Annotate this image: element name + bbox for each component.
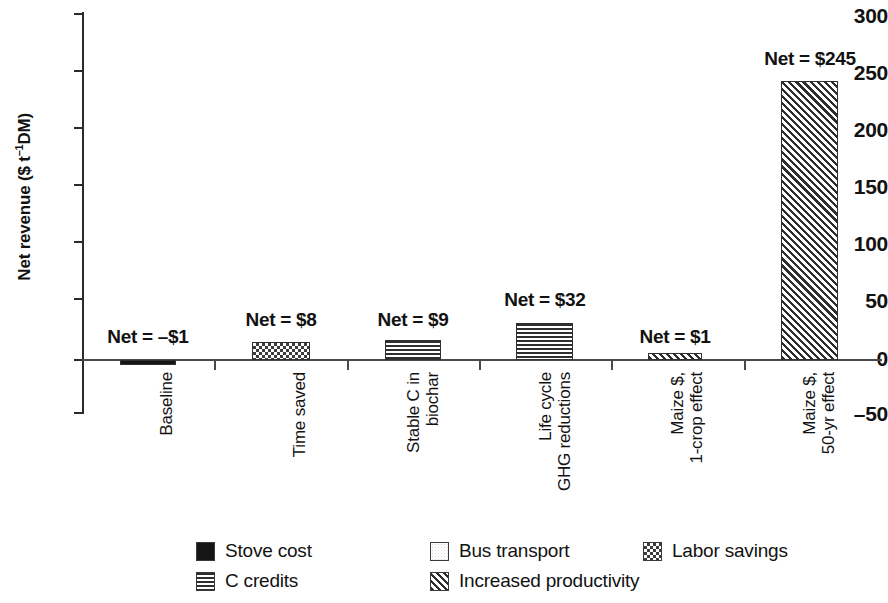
x-category-label-life-cycle-ghg-reductions-line1: Life cycle: [536, 372, 555, 441]
bar-label-stable-c-in-biochar: Net = $9: [353, 309, 473, 331]
x-category-label-maize-50-yr-effect: Maize $, 50-yr effect: [800, 372, 838, 454]
legend-swatch-c-credits: [196, 572, 215, 591]
legend-label-stove-cost: Stove cost: [225, 540, 312, 562]
x-tick-mark-5: [744, 361, 746, 370]
legend-item-increased-productivity: Increased productivity: [430, 570, 639, 592]
bar-baseline: [120, 360, 176, 365]
x-tick-mark-1: [214, 361, 216, 370]
bar-label-life-cycle-ghg-reductions: Net = $32: [480, 289, 610, 311]
legend-label-bus-transport: Bus transport: [459, 540, 569, 562]
bar-label-maize-50-yr-effect: Net = $245: [749, 48, 871, 70]
bar-label-time-saved: Net = $8: [221, 309, 341, 331]
bar-life-cycle-ghg-reductions: [516, 323, 573, 360]
legend-row-2: C credits Increased productivity: [196, 570, 886, 600]
bar-stable-c-in-biochar: [385, 340, 441, 360]
bar-maize-1-crop-effect: [648, 353, 702, 360]
y-axis-line: [82, 12, 84, 414]
x-category-label-maize-1-crop-effect-line1: Maize $,: [668, 372, 687, 435]
x-category-label-maize-50-yr-effect-line2: 50-yr effect: [819, 372, 838, 454]
x-category-label-maize-1-crop-effect: Maize $, 1-crop effect: [668, 372, 706, 464]
y-axis-title-pre: Net revenue ($ t: [15, 156, 34, 280]
x-category-label-baseline: Baseline: [157, 372, 176, 436]
bar-time-saved: [252, 342, 310, 360]
legend-row-1: Stove cost Bus transport Labor savings: [196, 540, 886, 570]
legend-swatch-bus-transport: [430, 542, 449, 561]
zero-baseline: [82, 359, 882, 361]
x-category-label-life-cycle-ghg-reductions-line2: GHG reductions: [555, 372, 574, 491]
bar-maize-50-yr-effect: [781, 81, 838, 360]
legend-item-labor-savings: Labor savings: [643, 540, 788, 562]
bar-label-maize-1-crop-effect: Net = $1: [615, 326, 735, 348]
y-axis-title: Net revenue ($ t–1DM): [13, 77, 35, 317]
legend-label-labor-savings: Labor savings: [672, 540, 788, 562]
legend-swatch-stove-cost: [196, 542, 215, 561]
x-category-label-stable-c-in-biochar-line1: Stable C in: [404, 372, 423, 453]
x-category-label-stable-c-in-biochar-line2: biochar: [423, 372, 442, 453]
legend-swatch-increased-productivity: [430, 572, 449, 591]
legend-item-stove-cost: Stove cost: [196, 540, 430, 562]
x-category-label-baseline-line1: Baseline: [157, 372, 176, 436]
y-tick-label-300: 300: [826, 5, 888, 26]
x-tick-mark-2: [347, 361, 349, 370]
legend-label-c-credits: C credits: [225, 570, 298, 592]
x-tick-mark-4: [611, 361, 613, 370]
legend-swatch-labor-savings: [643, 542, 662, 561]
bar-label-baseline: Net = –$1: [88, 326, 208, 348]
y-axis-title-post: DM): [15, 113, 34, 145]
x-category-label-time-saved: Time saved: [290, 372, 309, 457]
x-category-label-maize-50-yr-effect-line1: Maize $,: [800, 372, 819, 435]
x-category-label-time-saved-line1: Time saved: [290, 372, 309, 457]
legend-item-c-credits: C credits: [196, 570, 430, 592]
y-axis-title-exponent: –1: [13, 144, 25, 156]
x-tick-mark-3: [479, 361, 481, 370]
x-category-label-maize-1-crop-effect-line2: 1-crop effect: [687, 372, 706, 464]
x-category-label-stable-c-in-biochar: Stable C in biochar: [404, 372, 442, 453]
legend-label-increased-productivity: Increased productivity: [459, 570, 639, 592]
x-category-label-life-cycle-ghg-reductions: Life cycle GHG reductions: [536, 372, 574, 491]
legend: Stove cost Bus transport Labor savings C…: [196, 540, 886, 600]
net-revenue-bar-chart: Net revenue ($ t–1DM) 300 250 200 150 10…: [0, 0, 888, 603]
legend-item-bus-transport: Bus transport: [430, 540, 643, 562]
